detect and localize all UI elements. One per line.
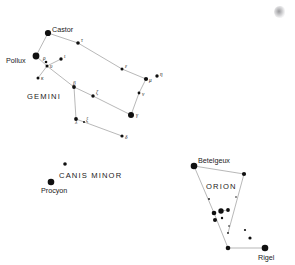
star-dot-epsilon[interactable] [121, 68, 124, 71]
star-names-layer: CastorPolluxProcyonBetelgeuxRigel [6, 25, 275, 262]
star-dot-gomeisa[interactable] [63, 162, 67, 166]
bayer-label-delta: δ [125, 134, 128, 140]
constellation-map: ρυκιτεμηνγζβλξδ CastorPolluxProcyonBetel… [0, 0, 295, 265]
star-label-castor: Castor [52, 25, 74, 34]
bayer-label-upsilon: υ [50, 63, 53, 69]
star-dot-alnitak[interactable] [212, 211, 217, 216]
star-dot-eta[interactable] [155, 74, 158, 77]
star-dot-ori-n1[interactable] [208, 198, 210, 200]
star-dot-iota[interactable] [59, 57, 62, 60]
star-dot-rigel[interactable] [262, 245, 269, 252]
star-dot-pollux[interactable] [33, 53, 40, 60]
constellation-line [122, 69, 146, 79]
bayer-label-mu: μ [149, 77, 152, 83]
star-label-betelgeux: Betelgeux [198, 156, 230, 165]
star-dot-alnilam[interactable] [218, 208, 223, 213]
star-dot-zeta[interactable] [91, 94, 94, 97]
bayer-label-tau: τ [81, 37, 84, 43]
star-dot-rho[interactable] [45, 61, 48, 64]
constellation-label-gemini: GEMINI [27, 92, 61, 101]
constellation-line [93, 96, 131, 115]
star-dot-xi[interactable] [83, 121, 85, 123]
star-dot-castor[interactable] [45, 30, 51, 36]
star-dot-bellatrix[interactable] [242, 172, 246, 176]
star-dot-ori-s1[interactable] [213, 218, 217, 222]
bayer-labels-layer: ρυκιτεμηνγζβλξδ [41, 37, 163, 140]
constellation-lines-layer [36, 33, 265, 248]
star-dot-ori-sw2[interactable] [227, 232, 229, 234]
bayer-label-nu: ν [142, 91, 145, 97]
star-dot-nu[interactable] [138, 92, 141, 95]
star-dot-upsilon[interactable] [46, 65, 49, 68]
bayer-label-iota: ι [64, 53, 66, 59]
star-dots-layer [33, 30, 269, 251]
star-dot-gamma[interactable] [128, 112, 134, 118]
star-label-procyon: Procyon [41, 186, 67, 195]
constellation-line [76, 119, 122, 136]
bayer-label-xi: ξ [86, 116, 89, 123]
bayer-label-zeta: ζ [96, 89, 99, 96]
bayer-label-gamma: γ [136, 112, 139, 118]
bayer-label-rho: ρ [42, 55, 46, 61]
bayer-label-beta2: β [72, 80, 76, 86]
constellation-line [74, 87, 93, 96]
constellation-line [194, 166, 244, 174]
star-chart: ρυκιτεμηνγζβλξδ CastorPolluxProcyonBetel… [0, 0, 295, 265]
bayer-label-eta: η [160, 71, 163, 77]
star-label-pollux: Pollux [6, 56, 26, 65]
star-dot-ori-s2[interactable] [221, 217, 223, 219]
star-dot-kappa[interactable] [37, 77, 40, 80]
star-dot-ori-sw1[interactable] [228, 225, 230, 227]
star-dot-delta[interactable] [120, 134, 123, 137]
bayer-label-epsilon: ε [125, 63, 128, 69]
constellation-names-layer: GEMINICANIS MINORORION [27, 92, 237, 191]
constellation-label-canis-minor: CANIS MINOR [59, 171, 122, 180]
star-dot-mu[interactable] [144, 77, 148, 81]
star-dot-tau[interactable] [76, 41, 80, 45]
constellation-line [36, 33, 48, 56]
constellation-line [74, 87, 76, 119]
star-dot-ori-e2[interactable] [248, 236, 251, 239]
constellation-line [48, 33, 78, 43]
star-dot-ori-n2[interactable] [235, 196, 237, 198]
star-dot-mintaka[interactable] [226, 208, 230, 212]
star-dot-procyon[interactable] [48, 179, 55, 186]
constellation-line [47, 66, 74, 87]
constellation-line [78, 43, 122, 69]
star-dot-betelgeux[interactable] [191, 163, 198, 170]
star-dot-saiph[interactable] [226, 246, 231, 251]
star-dot-ori-e1[interactable] [244, 229, 246, 231]
corner-smudge [274, 6, 285, 18]
bayer-label-kappa: κ [41, 75, 44, 81]
constellation-label-orion: ORION [206, 182, 237, 191]
star-label-rigel: Rigel [258, 253, 275, 262]
